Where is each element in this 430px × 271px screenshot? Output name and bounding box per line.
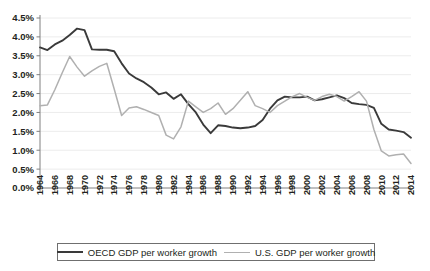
x-axis-tick-label: 1972 (95, 175, 105, 195)
line-chart-svg: 0.0%0.5%1.0%1.5%2.0%2.5%3.0%3.5%4.0%4.5%… (0, 0, 430, 271)
legend-label-oecd: OECD GDP per worker growth (88, 247, 217, 258)
x-axis-tick-label: 2014 (406, 175, 416, 195)
y-axis-tick-label: 3.0% (12, 69, 34, 80)
y-axis-tick-label: 1.0% (12, 145, 34, 156)
x-axis-tick-label: 1994 (258, 175, 268, 195)
x-axis-tick-label: 1964 (35, 175, 45, 195)
x-axis-tick-label: 1982 (169, 175, 179, 195)
x-axis-tick-label: 2012 (391, 175, 401, 195)
x-axis-tick-label: 2010 (377, 175, 387, 195)
y-axis-tick-label: 0.0% (12, 182, 34, 193)
x-axis-tick-label: 2006 (347, 175, 357, 195)
x-axis-tick-label: 1990 (228, 175, 238, 195)
legend-line-swatch-us (224, 252, 250, 253)
y-axis-tick-label: 0.5% (12, 164, 34, 175)
x-axis-tick-label: 2000 (302, 175, 312, 195)
y-axis-tick-label: 1.5% (12, 126, 34, 137)
legend-entry-oecd: OECD GDP per worker growth (57, 247, 217, 258)
x-axis-tick-label: 1996 (273, 175, 283, 195)
x-axis-tick-label: 1978 (139, 175, 149, 195)
x-axis-tick-label: 2008 (362, 175, 372, 195)
plot-area: 0.0%0.5%1.0%1.5%2.0%2.5%3.0%3.5%4.0%4.5%… (0, 0, 430, 271)
legend-entry-us: U.S. GDP per worker growth (224, 247, 375, 258)
x-axis-tick-label: 1970 (80, 175, 90, 195)
x-axis-tick-label: 1980 (154, 175, 164, 195)
x-axis-tick-label: 1976 (124, 175, 134, 195)
x-axis-tick-label: 1966 (50, 175, 60, 195)
series-line-us (40, 57, 411, 164)
y-axis-tick-label: 4.0% (12, 31, 34, 42)
chart-legend: OECD GDP per worker growth U.S. GDP per … (57, 243, 375, 261)
series-line-oecd (40, 29, 411, 138)
x-axis-tick-label: 1986 (198, 175, 208, 195)
x-axis-tick-label: 1992 (243, 175, 253, 195)
chart-container: 0.0%0.5%1.0%1.5%2.0%2.5%3.0%3.5%4.0%4.5%… (0, 0, 430, 271)
legend-label-us: U.S. GDP per worker growth (255, 247, 375, 258)
y-axis-tick-label: 3.5% (12, 50, 34, 61)
legend-line-swatch-oecd (57, 251, 83, 253)
x-axis-tick-label: 1984 (184, 175, 194, 195)
x-axis-tick-label: 2004 (332, 175, 342, 195)
x-axis-tick-label: 1974 (109, 175, 119, 195)
x-axis-tick-label: 1988 (213, 175, 223, 195)
x-axis-tick-label: 2002 (317, 175, 327, 195)
y-axis-tick-label: 2.5% (12, 88, 34, 99)
x-axis-tick-label: 1998 (287, 175, 297, 195)
x-axis-tick-label: 1968 (65, 175, 75, 195)
y-axis-tick-label: 2.0% (12, 107, 34, 118)
y-axis-tick-label: 4.5% (12, 12, 34, 23)
